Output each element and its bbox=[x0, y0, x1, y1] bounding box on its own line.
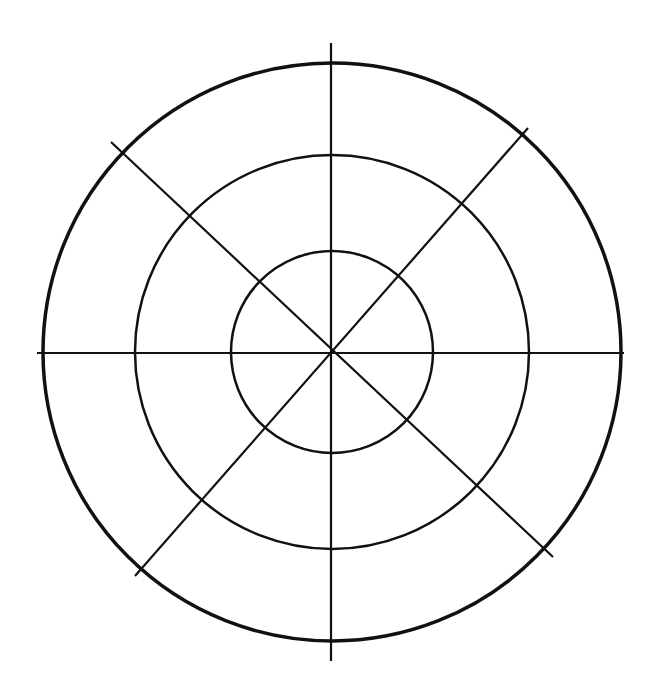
polar-grid-diagram bbox=[0, 0, 660, 697]
polar-grid-svg bbox=[0, 0, 660, 697]
